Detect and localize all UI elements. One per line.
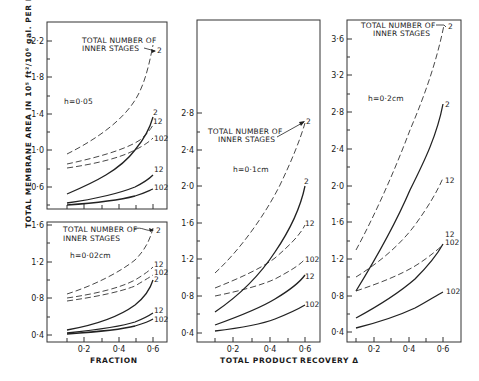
ytick-label: 1·6 [331, 218, 344, 227]
stages-annotation-line2: INNER STAGES [373, 29, 430, 38]
xtick-label: 0·2 [368, 345, 381, 354]
ytick-label: 0·8 [31, 294, 44, 303]
ytick-label: 1·8 [31, 73, 44, 82]
curve-dashed-102 [215, 259, 305, 296]
curve-label-2: 2 [156, 226, 161, 235]
xtick-label: 0·4 [113, 345, 126, 354]
ytick-label: 1·2 [331, 255, 344, 264]
h-annotation: h=0·2cm [368, 94, 404, 103]
curve-label-12: 12 [154, 165, 164, 174]
y-ticks-panel-h02 [347, 39, 352, 332]
curve-dashed-102 [67, 275, 153, 301]
curve-label-2: 2 [304, 177, 309, 186]
ytick-label: 2·0 [181, 182, 194, 191]
panel-h002: 1·6 1·2 0·8 0·4 0·2 0·4 0·6 TOTAL NUMBER… [31, 221, 168, 354]
curve-solid-102 [67, 189, 153, 205]
h-annotation: h=0·05 [64, 97, 93, 106]
h-annotation: h=0·02cm [70, 251, 111, 260]
curve-label-2: 2 [306, 117, 311, 126]
stages-annotation-line2: INNER STAGES [63, 234, 120, 243]
x-ticks-panel-h01 [215, 337, 305, 342]
ytick-label: 3·6 [331, 35, 344, 44]
ytick-label: 3·2 [331, 71, 344, 80]
panel-h01: 2·8 2·4 2·0 1·6 1·2 0·8 0·4 0·2 0·4 0·6 … [181, 20, 320, 354]
panel-h02: 3·6 3·2 2·8 2·4 2·0 1·6 1·2 0·8 0·4 0·2 … [331, 20, 461, 354]
curve-label-2: 2 [157, 46, 162, 55]
stages-annotation-line1: TOTAL NUMBER OF [62, 225, 137, 234]
ytick-label: 1·4 [31, 110, 44, 119]
ytick-label: 2·2 [31, 37, 44, 46]
curve-label-102: 102 [154, 183, 169, 192]
figure-canvas: TOTAL MEMBRANE AREA IN 10⁵ ft²/10⁶ gal. … [0, 0, 479, 381]
curve-label-102: 102 [154, 134, 169, 143]
ytick-label: 1·2 [31, 258, 44, 267]
curve-label-102: 102 [446, 287, 461, 296]
x-axis-title-part3: RECOVERY Δ [300, 356, 359, 365]
ytick-label: 2·4 [331, 145, 344, 154]
h-annotation: h=0·1cm [233, 165, 269, 174]
ytick-label: 2·0 [331, 182, 344, 191]
curve-label-102: 102 [154, 315, 169, 324]
curve-dashed-12 [215, 225, 305, 288]
ytick-label: 1·0 [31, 146, 44, 155]
stages-annotation-line2: INNER STAGES [218, 135, 275, 144]
curve-dashed-2 [215, 123, 305, 273]
x-axis-title-part2: TOTAL PRODUCT [220, 356, 298, 365]
curve-solid-2 [67, 280, 153, 330]
xtick-label: 0·6 [437, 345, 450, 354]
ytick-label: 0·8 [331, 292, 344, 301]
x-ticks-panel-h005 [67, 204, 153, 209]
ytick-label: 0·4 [331, 328, 344, 337]
curve-label-12: 12 [305, 219, 315, 228]
curve-label-2: 2 [154, 275, 159, 284]
stages-annotation-line2: INNER STAGES [82, 44, 139, 53]
ytick-label: 0·4 [31, 331, 44, 340]
ytick-label: 2·4 [181, 146, 194, 155]
ytick-label: 1·6 [181, 219, 194, 228]
curve-label-12: 12 [154, 306, 164, 315]
y-ticks-panel-h005 [47, 41, 52, 205]
x-axis-title-part1: FRACTION [90, 356, 138, 365]
xtick-label: 0·4 [403, 345, 416, 354]
ytick-label: 0·4 [181, 329, 194, 338]
ytick-label: 2·8 [331, 108, 344, 117]
xtick-label: 0·4 [264, 345, 277, 354]
curve-label-102: 102 [445, 238, 460, 247]
curve-label-2: 2 [153, 108, 158, 117]
x-ticks-panel-h02 [356, 337, 443, 342]
curve-solid-2 [67, 117, 153, 194]
ytick-label: 1·2 [181, 255, 194, 264]
panel-h005: 2·2 1·8 1·4 1·0 0·6 TOTAL NUMBER OF INNE… [31, 22, 168, 209]
ytick-label: 0·8 [181, 292, 194, 301]
xtick-label: 0·6 [299, 345, 312, 354]
curve-label-2: 2 [448, 22, 453, 31]
y-ticks-panel-h002 [47, 225, 52, 335]
curve-label-12: 12 [445, 176, 455, 185]
curve-label-102: 102 [305, 255, 320, 264]
ytick-label: 1·6 [31, 221, 44, 230]
y-ticks-panel-h01 [197, 113, 202, 333]
curve-label-12: 12 [305, 272, 315, 281]
xtick-label: 0·6 [147, 345, 160, 354]
curve-solid-102 [215, 305, 305, 331]
curve-solid-12 [356, 244, 443, 318]
ytick-label: 2·8 [181, 109, 194, 118]
annotation-arrow [436, 25, 446, 27]
curve-label-2: 2 [445, 100, 450, 109]
xtick-label: 0·2 [78, 345, 91, 354]
curve-label-12: 12 [153, 117, 163, 126]
curve-dashed-2 [356, 25, 444, 250]
x-ticks-panel-h002 [67, 337, 153, 342]
ytick-label: 0·6 [31, 183, 44, 192]
xtick-label: 0·2 [227, 345, 240, 354]
curve-label-102: 102 [305, 300, 320, 309]
